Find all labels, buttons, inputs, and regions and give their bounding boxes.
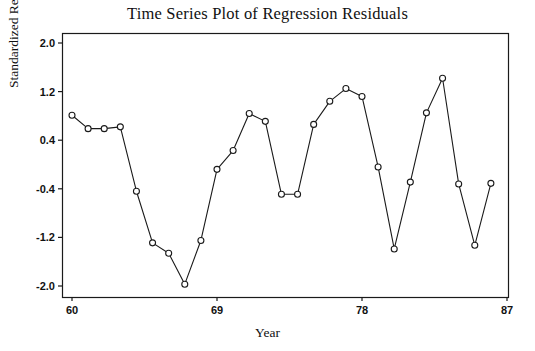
data-point: [295, 191, 301, 197]
data-point: [359, 93, 365, 99]
data-point-marker: [230, 148, 236, 154]
data-point-marker: [182, 281, 188, 287]
data-point: [407, 179, 413, 185]
data-point: [311, 121, 317, 127]
data-point: [343, 86, 349, 92]
chart-figure: Time Series Plot of Regression Residuals…: [0, 0, 535, 351]
data-point: [150, 240, 156, 246]
data-point-marker: [85, 126, 91, 132]
data-point: [133, 188, 139, 194]
data-point-marker: [375, 164, 381, 170]
data-point: [117, 124, 123, 130]
data-point: [456, 181, 462, 187]
data-point: [230, 148, 236, 154]
data-point-marker: [407, 179, 413, 185]
data-point-marker: [246, 110, 252, 116]
data-point-marker: [456, 181, 462, 187]
data-point: [85, 126, 91, 132]
data-point: [391, 246, 397, 252]
data-point-marker: [214, 166, 220, 172]
data-point-marker: [166, 250, 172, 256]
data-point: [166, 250, 172, 256]
data-point-marker: [391, 246, 397, 252]
data-point-marker: [472, 242, 478, 248]
data-point-marker: [133, 188, 139, 194]
data-point: [423, 110, 429, 116]
data-point: [101, 126, 107, 132]
data-point: [182, 281, 188, 287]
data-point-marker: [69, 112, 75, 118]
data-point-marker: [295, 191, 301, 197]
data-point: [472, 242, 478, 248]
data-point: [214, 166, 220, 172]
data-point: [198, 237, 204, 243]
data-point: [440, 75, 446, 81]
plot-area: [0, 0, 535, 351]
data-point-marker: [311, 121, 317, 127]
data-point-marker: [150, 240, 156, 246]
data-point-marker: [327, 98, 333, 104]
data-point: [262, 118, 268, 124]
data-point-marker: [262, 118, 268, 124]
data-point-marker: [101, 126, 107, 132]
plot-frame: [63, 34, 509, 298]
data-point-marker: [278, 191, 284, 197]
data-point: [327, 98, 333, 104]
data-point: [246, 110, 252, 116]
data-point: [375, 164, 381, 170]
data-point: [278, 191, 284, 197]
data-point-marker: [117, 124, 123, 130]
data-point-marker: [359, 93, 365, 99]
data-point: [69, 112, 75, 118]
data-point-marker: [423, 110, 429, 116]
data-point-marker: [440, 75, 446, 81]
data-point-marker: [488, 180, 494, 186]
data-point-marker: [198, 237, 204, 243]
data-point: [488, 180, 494, 186]
data-point-marker: [343, 86, 349, 92]
